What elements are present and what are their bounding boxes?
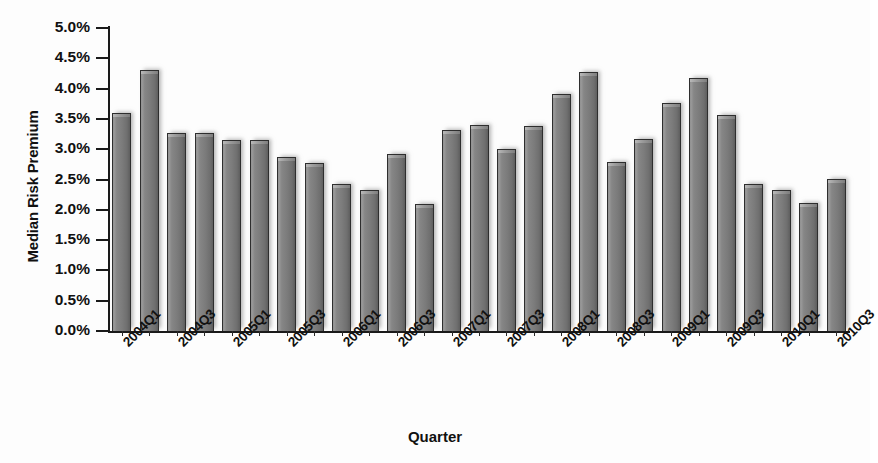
y-tick-label: 4.5% <box>28 48 90 66</box>
y-tick-mark <box>96 179 108 181</box>
bar <box>662 103 681 331</box>
x-tick-mark <box>424 331 425 336</box>
y-tick-mark <box>96 27 108 29</box>
bar <box>305 163 324 331</box>
y-tick-label: 4.0% <box>28 79 90 97</box>
bar <box>250 140 269 331</box>
x-tick-mark <box>204 331 205 336</box>
bar <box>634 139 653 331</box>
x-tick-mark <box>534 331 535 336</box>
y-tick-mark <box>96 269 108 271</box>
bar <box>332 184 351 331</box>
y-tick-label: 1.0% <box>28 260 90 278</box>
x-tick-mark <box>644 331 645 336</box>
bar <box>167 133 186 331</box>
bar <box>195 133 214 331</box>
y-tick-mark <box>96 88 108 90</box>
y-tick-mark <box>96 209 108 211</box>
y-tick-label: 0.5% <box>28 291 90 309</box>
y-tick-label: 3.0% <box>28 139 90 157</box>
x-tick-mark <box>369 331 370 336</box>
bar <box>607 162 626 331</box>
bar <box>442 130 461 331</box>
y-tick-label: 1.5% <box>28 230 90 248</box>
bar <box>497 149 516 331</box>
y-tick-label: 2.5% <box>28 170 90 188</box>
y-tick-label: 0.0% <box>28 321 90 339</box>
y-tick-mark <box>96 239 108 241</box>
x-axis-title: Quarter <box>0 428 870 445</box>
bar <box>579 72 598 331</box>
bar <box>772 190 791 331</box>
x-tick-mark <box>149 331 150 336</box>
y-tick-label: 3.5% <box>28 109 90 127</box>
bar <box>140 70 159 331</box>
y-tick-mark <box>96 118 108 120</box>
bar <box>387 154 406 331</box>
x-tick-mark <box>314 331 315 336</box>
bar <box>222 140 241 331</box>
x-tick-mark <box>754 331 755 336</box>
y-tick-mark <box>96 57 108 59</box>
bar <box>112 113 131 331</box>
bar <box>552 94 571 331</box>
y-tick-mark <box>96 330 108 332</box>
x-tick-mark <box>589 331 590 336</box>
bar <box>689 78 708 331</box>
x-tick-mark <box>699 331 700 336</box>
x-tick-mark <box>259 331 260 336</box>
bar-series <box>108 28 850 331</box>
bar <box>827 179 846 331</box>
bar <box>717 115 736 331</box>
y-tick-mark <box>96 300 108 302</box>
y-tick-label: 2.0% <box>28 200 90 218</box>
x-tick-mark <box>479 331 480 336</box>
bar <box>277 157 296 331</box>
y-tick-label: 5.0% <box>28 18 90 36</box>
bar <box>524 126 543 331</box>
bar <box>470 125 489 331</box>
x-tick-mark <box>809 331 810 336</box>
y-tick-mark <box>96 148 108 150</box>
